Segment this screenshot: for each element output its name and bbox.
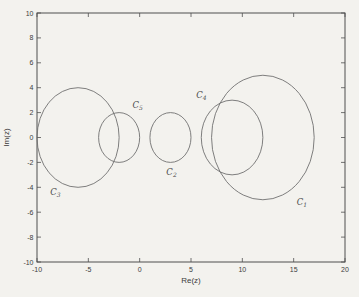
y-axis-label: Im(z) xyxy=(2,128,11,147)
x-tick-label: 0 xyxy=(138,266,142,273)
axis-tick-labels: -10-505101520-10-8-6-4-20246810 xyxy=(23,10,349,273)
circle-c2 xyxy=(150,113,191,163)
y-tick-label: -10 xyxy=(23,259,33,266)
gershgorin-circles xyxy=(37,75,314,200)
circle-label-c5: C5 xyxy=(132,100,143,111)
y-tick-label: -2 xyxy=(27,159,33,166)
x-tick-label: -5 xyxy=(85,266,91,273)
gershgorin-circles-plot: -10-505101520-10-8-6-4-20246810 C1C2C3C4… xyxy=(0,0,359,297)
x-tick-label: -10 xyxy=(32,266,42,273)
y-tick-label: 4 xyxy=(30,84,34,91)
y-tick-label: 6 xyxy=(30,59,34,66)
circle-label-c4: C4 xyxy=(196,90,207,101)
y-tick-label: -6 xyxy=(27,209,33,216)
circle-c3 xyxy=(37,88,119,188)
x-tick-label: 20 xyxy=(341,266,349,273)
x-tick-label: 5 xyxy=(189,266,193,273)
y-tick-label: 0 xyxy=(30,134,34,141)
figure-page: -10-505101520-10-8-6-4-20246810 C1C2C3C4… xyxy=(0,0,359,297)
x-axis-label: Re(z) xyxy=(181,276,201,285)
x-tick-label: 15 xyxy=(290,266,298,273)
circle-c4 xyxy=(201,100,263,175)
gershgorin-circle-labels: C1C2C3C4C5 xyxy=(50,90,307,208)
y-tick-label: 2 xyxy=(30,109,34,116)
circle-label-c2: C2 xyxy=(166,167,177,178)
circle-label-c1: C1 xyxy=(297,197,307,208)
x-tick-label: 10 xyxy=(238,266,246,273)
y-tick-label: 10 xyxy=(26,10,34,17)
circle-label-c3: C3 xyxy=(50,187,61,198)
y-tick-label: -4 xyxy=(27,184,33,191)
y-tick-label: -8 xyxy=(27,234,33,241)
y-tick-label: 8 xyxy=(30,34,34,41)
